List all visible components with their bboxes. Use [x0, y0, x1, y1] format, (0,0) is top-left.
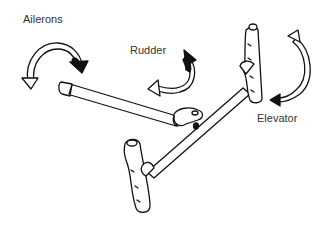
- rudder-label: Rudder: [130, 44, 166, 56]
- main-shaft: [147, 88, 250, 178]
- ailerons-arrow-icon: [22, 43, 88, 89]
- ailerons-label: Ailerons: [23, 13, 63, 25]
- control-stick-diagram: Ailerons Rudder Elevator: [0, 0, 336, 242]
- pivot-joint: [173, 108, 202, 129]
- elevator-arrow-icon: [270, 30, 310, 106]
- rudder-arrow-icon: [148, 50, 196, 96]
- lower-grip: [124, 140, 154, 213]
- elevator-label: Elevator: [257, 112, 297, 124]
